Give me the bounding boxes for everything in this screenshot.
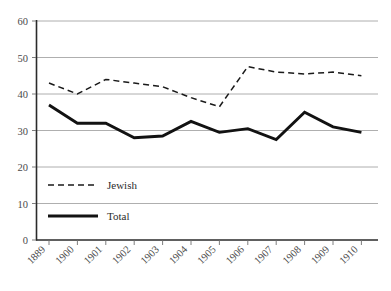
xtick-label: 1889 [25,244,48,267]
chart-figure: 60 50 40 30 20 10 0 1889 1900 [0,0,391,291]
xtick-label: 1906 [224,244,247,267]
series-line-jewish [49,67,361,107]
ytick-label: 40 [18,89,29,100]
y-axis-labels: 60 50 40 30 20 10 0 [18,16,29,246]
xtick-label: 1908 [280,244,303,267]
x-axis-labels: 1889 1900 1901 1902 1903 1904 1905 1906 … [25,243,360,266]
xtick-label: 1907 [252,244,275,267]
xtick-label: 1910 [337,244,360,267]
xtick-label: 1903 [138,244,161,267]
ytick-label: 30 [18,126,29,137]
xtick-label: 1902 [110,244,133,267]
legend-label-total: Total [107,210,129,222]
ytick-label: 60 [18,16,29,27]
ytick-label: 0 [23,235,28,246]
xtick-label: 1900 [53,244,76,267]
xtick-label: 1904 [167,243,190,266]
xtick-label: 1901 [82,244,105,267]
line-chart: 60 50 40 30 20 10 0 1889 1900 [0,0,391,291]
gridlines [36,21,378,204]
xtick-label: 1905 [195,244,218,267]
chart-legend: Jewish Total [48,179,137,222]
y-tickmarks [32,21,36,240]
series-line-total [49,105,361,140]
legend-label-jewish: Jewish [107,179,137,191]
ytick-label: 10 [18,199,29,210]
ytick-label: 50 [18,53,29,64]
xtick-label: 1909 [309,244,332,267]
ytick-label: 20 [18,162,29,173]
